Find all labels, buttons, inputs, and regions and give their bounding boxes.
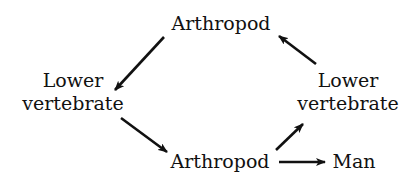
node-bottom-arthropod: Arthropod	[165, 150, 275, 173]
node-label: Arthropod	[166, 12, 276, 35]
arrow-left-vertebrate-to-bottom-arthropod	[121, 118, 167, 152]
node-top-arthropod: Arthropod	[166, 12, 276, 35]
node-label-line1: Lower	[293, 69, 403, 92]
transmission-cycle-diagram: Arthropod Lower vertebrate Lower vertebr…	[0, 0, 415, 187]
node-label: Arthropod	[165, 150, 275, 173]
node-label-line2: vertebrate	[293, 92, 403, 115]
node-label: Man	[328, 150, 380, 173]
node-label-line1: Lower	[18, 69, 128, 92]
node-left-lower-vertebrate: Lower vertebrate	[18, 69, 128, 115]
arrow-bottom-arthropod-to-right-vertebrate	[276, 124, 303, 150]
node-right-lower-vertebrate: Lower vertebrate	[293, 69, 403, 115]
node-label-line2: vertebrate	[18, 92, 128, 115]
node-man: Man	[328, 150, 380, 173]
arrow-right-vertebrate-to-top-arthropod	[279, 36, 316, 64]
